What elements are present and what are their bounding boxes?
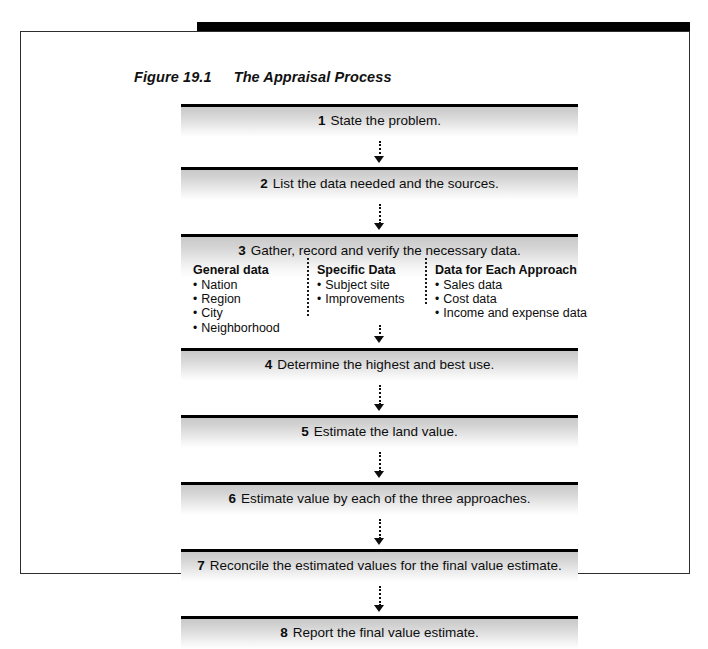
step-box-6: 6Estimate value by each of the three app…: [181, 482, 578, 515]
step-title-5: 5Estimate the land value.: [181, 424, 578, 439]
data-column-item: City: [193, 306, 305, 320]
connector-5-6: [181, 448, 578, 482]
data-column-item: Improvements: [317, 292, 423, 306]
connector-4-5: [181, 381, 578, 415]
step-text-6: Estimate value by each of the three appr…: [241, 491, 531, 506]
step-text-5: Estimate the land value.: [314, 424, 458, 439]
data-column-heading: General data: [193, 263, 305, 277]
figure-title: The Appraisal Process: [234, 69, 392, 85]
data-column-item: Income and expense data: [435, 306, 578, 320]
data-column-heading: Specific Data: [317, 263, 423, 277]
step-title-1: 1State the problem.: [181, 113, 578, 128]
connector-1-2: [181, 137, 578, 167]
step-title-6: 6Estimate value by each of the three app…: [181, 491, 578, 506]
data-column-item: Subject site: [317, 278, 423, 292]
data-column-item: Sales data: [435, 278, 578, 292]
step-title-2: 2List the data needed and the sources.: [181, 176, 578, 191]
appraisal-process-flow: 1State the problem. 2List the data neede…: [181, 104, 578, 649]
step-title-7: 7Reconcile the estimated values for the …: [181, 558, 578, 573]
step-3-data-columns: General data Nation Region City Neighbor…: [181, 263, 578, 325]
arrow-down-icon: [374, 538, 384, 545]
step-text-3: Gather, record and verify the necessary …: [251, 243, 521, 258]
connector-dots: [379, 586, 381, 606]
step-text-1: State the problem.: [331, 113, 441, 128]
step-number-3: 3: [238, 243, 246, 258]
step-number-7: 7: [197, 558, 205, 573]
step-number-8: 8: [280, 625, 288, 640]
connector-dots: [379, 204, 381, 224]
arrow-down-icon: [374, 156, 384, 163]
data-column-item: Nation: [193, 278, 305, 292]
arrow-down-icon: [374, 471, 384, 478]
step-text-2: List the data needed and the sources.: [273, 176, 499, 191]
step-box-1: 1State the problem.: [181, 104, 578, 137]
connector-2-3: [181, 200, 578, 234]
step-text-7: Reconcile the estimated values for the f…: [210, 558, 562, 573]
figure-number: Figure 19.1: [134, 69, 212, 85]
step-number-2: 2: [260, 176, 268, 191]
data-column-specific: Specific Data Subject site Improvements: [305, 263, 423, 325]
step-text-8: Report the final value estimate.: [293, 625, 479, 640]
arrow-down-icon: [374, 605, 384, 612]
connector-dots: [379, 452, 381, 472]
data-column-approach: Data for Each Approach Sales data Cost d…: [423, 263, 578, 325]
step-title-4: 4Determine the highest and best use.: [181, 357, 578, 372]
step-box-2: 2List the data needed and the sources.: [181, 167, 578, 200]
connector-3-4: [181, 322, 578, 348]
step-title-3: 3Gather, record and verify the necessary…: [181, 243, 578, 258]
connector-6-7: [181, 515, 578, 549]
arrow-down-icon: [374, 404, 384, 411]
data-column-heading: Data for Each Approach: [435, 263, 578, 277]
step-number-1: 1: [318, 113, 326, 128]
step-box-7: 7Reconcile the estimated values for the …: [181, 549, 578, 582]
arrow-down-icon: [374, 223, 384, 230]
figure-frame: Figure 19.1The Appraisal Process 1State …: [20, 31, 690, 574]
data-column-item: Region: [193, 292, 305, 306]
step-title-8: 8Report the final value estimate.: [181, 625, 578, 640]
connector-dots: [379, 385, 381, 405]
data-column-general: General data Nation Region City Neighbor…: [181, 263, 305, 325]
connector-7-8: [181, 582, 578, 616]
step-box-5: 5Estimate the land value.: [181, 415, 578, 448]
arrow-down-icon: [374, 336, 384, 343]
data-column-item: Cost data: [435, 292, 578, 306]
step-box-4: 4Determine the highest and best use.: [181, 348, 578, 381]
step-box-3: 3Gather, record and verify the necessary…: [181, 234, 578, 322]
figure-caption: Figure 19.1The Appraisal Process: [134, 69, 392, 85]
step-number-4: 4: [265, 357, 273, 372]
step-number-5: 5: [301, 424, 309, 439]
connector-dots: [379, 519, 381, 539]
step-text-4: Determine the highest and best use.: [277, 357, 494, 372]
step-number-6: 6: [228, 491, 236, 506]
step-box-8: 8Report the final value estimate.: [181, 616, 578, 649]
